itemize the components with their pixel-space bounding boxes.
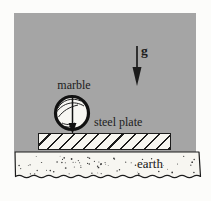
steel-plate-label: steel plate <box>94 116 142 128</box>
gravity-label: g <box>141 44 148 58</box>
physics-figure: g marble steel plate earth <box>0 0 211 201</box>
marble-label: marble <box>52 79 96 91</box>
earth-label: earth <box>137 157 163 170</box>
earth-ground <box>10 150 204 190</box>
air-region <box>14 13 196 152</box>
marble-icon <box>50 91 95 137</box>
steel-plate <box>38 133 171 150</box>
